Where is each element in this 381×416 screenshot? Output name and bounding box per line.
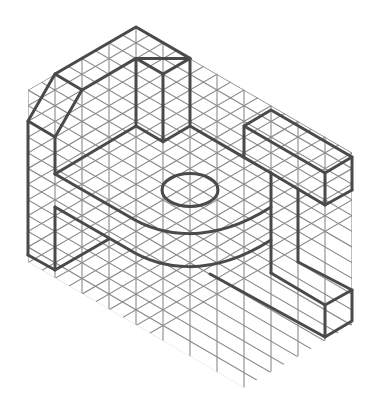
grid-line — [0, 388, 381, 416]
right-block-bottom — [271, 173, 352, 205]
grid-line — [0, 372, 381, 416]
top-box-outline — [55, 27, 190, 126]
drawing-canvas — [0, 0, 381, 416]
grid-line — [0, 0, 381, 43]
grid-line — [0, 0, 381, 28]
grid-line — [0, 0, 381, 59]
grid-line — [0, 0, 381, 44]
grid-line — [0, 356, 381, 416]
grid-line — [0, 0, 381, 12]
isometric-drawing — [0, 0, 381, 416]
grid-line — [0, 0, 381, 13]
lower-block-front — [271, 273, 352, 305]
grid-line — [0, 0, 381, 60]
grid-line — [0, 0, 381, 28]
